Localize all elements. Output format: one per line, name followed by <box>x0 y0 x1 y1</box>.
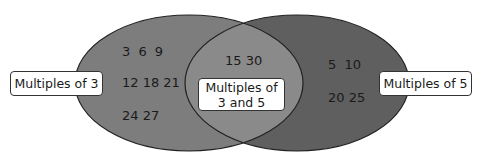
right-row-2: 20 25 <box>328 90 365 105</box>
intersection-label: Multiples of 3 and 5 <box>198 78 285 111</box>
right-set-label: Multiples of 5 <box>379 71 472 96</box>
left-row-1: 3 6 9 <box>122 44 163 59</box>
intersection-label-line1: Multiples of <box>199 80 284 95</box>
left-set-label: Multiples of 3 <box>10 71 103 96</box>
left-row-3: 24 27 <box>122 108 159 123</box>
intersection-label-line2: 3 and 5 <box>199 95 284 110</box>
left-row-2: 12 18 21 <box>122 75 180 90</box>
intersection-row-1: 15 30 <box>225 53 262 68</box>
right-row-1: 5 10 <box>328 57 361 72</box>
